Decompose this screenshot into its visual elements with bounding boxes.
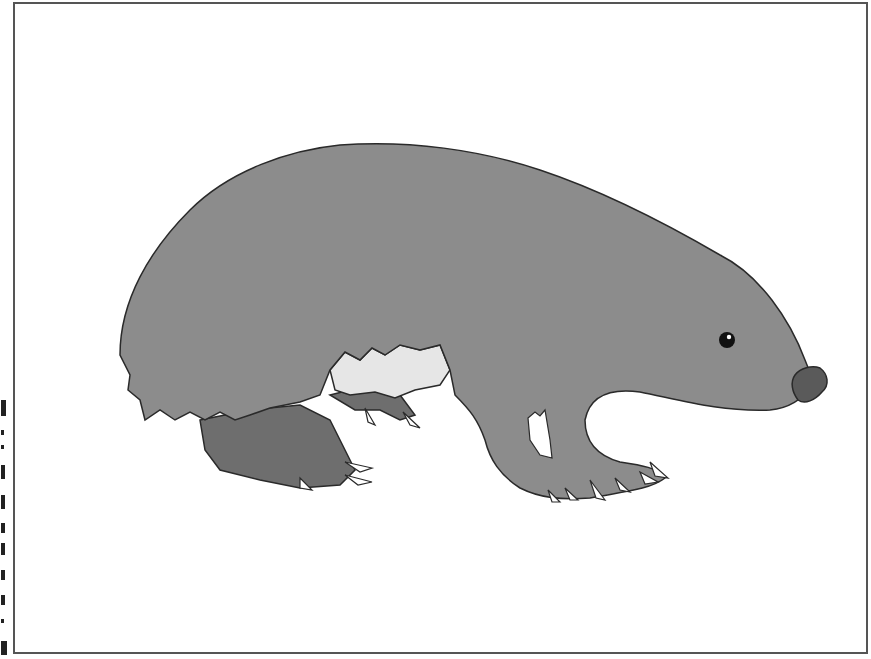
animal-illustration <box>0 0 871 659</box>
nose <box>792 367 827 402</box>
hind-leg <box>200 405 355 488</box>
eye <box>719 332 735 348</box>
eye-highlight <box>727 335 731 339</box>
